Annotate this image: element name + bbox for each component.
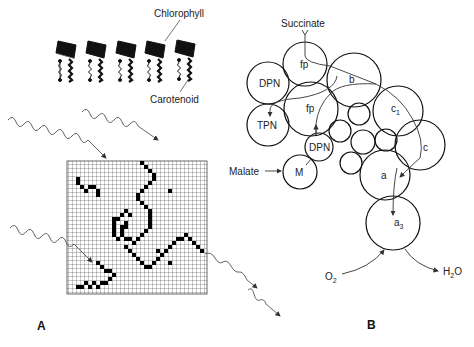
- chlorophyll-molecule: [116, 41, 136, 82]
- panel-b-label: B: [367, 318, 376, 332]
- chlorophyll-molecule: [86, 41, 106, 82]
- photon-wave-1: [8, 117, 106, 158]
- malate-label: Malate: [229, 166, 259, 177]
- photosynthetic-unit-grid: [67, 161, 207, 294]
- circle-small: [351, 130, 375, 154]
- fp-mid-label: fp: [306, 103, 315, 114]
- photon-wave-4-outgoing: [205, 253, 257, 288]
- h2o-label: H2O: [443, 266, 462, 279]
- m-label: M: [295, 167, 303, 178]
- carotenoid-leader-line: [180, 80, 188, 92]
- b-label: b: [349, 74, 355, 85]
- a-label: a: [381, 170, 387, 181]
- panel-b: Succinate fp b DPN fp TPN c1 c DPN M a a…: [229, 18, 462, 332]
- c1-label: c1: [391, 103, 400, 116]
- dpn-left-label: DPN: [259, 78, 280, 89]
- panel-a-label: A: [37, 319, 46, 333]
- circle-small: [329, 120, 351, 142]
- chlorophyll-label: Chlorophyll: [154, 8, 204, 19]
- a3-label: a3: [394, 217, 404, 230]
- o2-label: O2: [325, 271, 337, 284]
- chlorophyll-molecule: [145, 41, 165, 82]
- c-label: c: [423, 142, 428, 153]
- chlorophyll-molecule: [175, 40, 195, 81]
- chlorophyll-leader-line: [165, 20, 180, 41]
- figure-canvas: Chlorophyll Carotenoid A: [0, 0, 474, 347]
- tpn-label: TPN: [257, 120, 277, 131]
- fp-top-label: fp: [300, 59, 309, 70]
- photon-wave-2: [82, 109, 158, 140]
- succinate-label: Succinate: [281, 18, 325, 29]
- pigment-array: [56, 40, 195, 82]
- circle-small: [340, 152, 362, 174]
- circle-c: [395, 120, 445, 170]
- carotenoid-label: Carotenoid: [150, 94, 199, 105]
- dpn-small-label: DPN: [309, 142, 330, 153]
- chlorophyll-molecule: [56, 41, 76, 82]
